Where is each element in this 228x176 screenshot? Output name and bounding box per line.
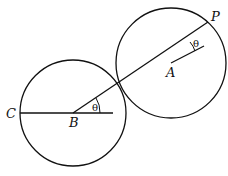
label-p: P [210,9,220,24]
theta-b: θ [92,102,98,113]
label-c: C [6,106,16,121]
label-b: B [68,115,79,130]
diagram: C B A P θ θ [0,0,228,176]
label-a: A [165,65,175,80]
line-b-to-p [73,22,208,113]
line-a-extension [171,46,204,63]
theta-a: θ [193,38,199,49]
